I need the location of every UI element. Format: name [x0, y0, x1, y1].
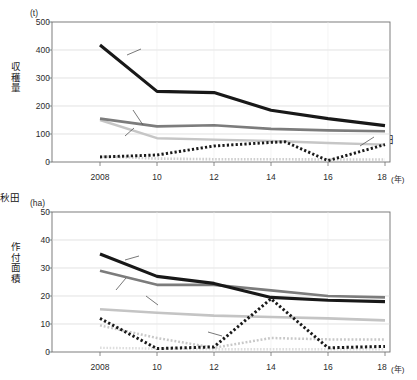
- bottom-y-tickmarks: [48, 212, 52, 352]
- top-x-tickmarks: [100, 162, 385, 166]
- bottom-chart-plot-area: [0, 190, 417, 380]
- bottom-plot-frame: [52, 212, 390, 352]
- bottom-x-tickmarks: [100, 352, 385, 356]
- top-y-tickmarks: [48, 22, 52, 162]
- harvest-volume-chart: (t) 収穫量 500 400 300 200 100 0 2008 10 12…: [0, 0, 417, 190]
- planted-area-chart: (ha) 作付面積 50 40 30 20 10 0 2008 10 12 14…: [0, 190, 417, 380]
- top-plot-frame: [52, 22, 390, 162]
- top-chart-plot-area: [0, 0, 417, 190]
